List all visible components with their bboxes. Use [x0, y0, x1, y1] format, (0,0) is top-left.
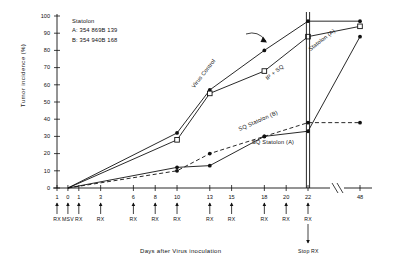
x-tick-label: 10	[170, 194, 184, 200]
data-point-marker	[175, 138, 180, 143]
annotation-lines-group	[55, 12, 310, 244]
data-point-marker	[358, 35, 362, 39]
data-point-marker	[358, 121, 362, 125]
series-line	[68, 123, 360, 188]
x-tick-label: 3	[94, 194, 108, 200]
legend-line-a: A: 354 869B 139	[72, 26, 117, 35]
stop-rx-label: Stop RX	[298, 248, 319, 254]
x-tick-label: 48	[353, 194, 367, 200]
treatment-label: RX	[200, 216, 220, 222]
treatment-label: RX	[254, 216, 274, 222]
data-point-marker	[208, 152, 212, 156]
legend: Statolon A: 354 869B 139 B: 354 940B 168	[72, 17, 117, 45]
y-tick-label: 90	[34, 30, 50, 36]
data-point-marker	[262, 135, 266, 139]
y-tick-label: 50	[34, 99, 50, 105]
x-tick-label: 13	[203, 194, 217, 200]
data-point-marker	[175, 131, 179, 135]
markers-group	[175, 19, 363, 172]
y-tick-label: 80	[34, 47, 50, 53]
y-tick-label: 100	[34, 13, 50, 19]
data-point-marker	[358, 19, 362, 23]
data-point-marker	[175, 169, 179, 173]
treatment-label: RX	[167, 216, 187, 222]
treatment-label: RX	[276, 216, 296, 222]
treatment-label: RX	[123, 216, 143, 222]
data-point-marker	[262, 69, 267, 74]
treatment-label: RX	[222, 216, 242, 222]
x-tick-label: 1	[72, 194, 86, 200]
treatment-label: RX	[298, 216, 318, 222]
y-tick-label: 20	[34, 150, 50, 156]
treatment-label: RX	[91, 216, 111, 222]
x-tick-label: 22	[301, 194, 315, 200]
treatment-label: RX	[69, 216, 89, 222]
y-tick-label: 0	[34, 185, 50, 191]
y-tick-label: 10	[34, 168, 50, 174]
y-tick-label: 40	[34, 116, 50, 122]
y-tick-label: 70	[34, 64, 50, 70]
legend-line-b: B: 354 940B 168	[72, 36, 117, 45]
x-tick-label: 15	[225, 194, 239, 200]
x-axis-title: Days after Virus inoculation	[140, 248, 221, 254]
y-tick-label: 60	[34, 82, 50, 88]
data-point-marker	[207, 91, 212, 96]
chart-root: Tumor incidence (%) 01020304050607080901…	[0, 0, 394, 268]
legend-title: Statolon	[72, 17, 117, 26]
y-tick-label: 30	[34, 133, 50, 139]
data-point-marker	[175, 165, 179, 169]
x-tick-label: 20	[279, 194, 293, 200]
curve-label-sq-statolon-a: SQ Statolon (A)	[252, 139, 294, 145]
treatment-label: RX	[145, 216, 165, 222]
x-tick-label: 8	[148, 194, 162, 200]
x-tick-label: 6	[126, 194, 140, 200]
chart-canvas	[0, 0, 394, 268]
data-point-marker	[262, 49, 266, 53]
data-point-marker	[208, 164, 212, 168]
data-point-marker	[358, 24, 363, 29]
x-tick-label: 18	[257, 194, 271, 200]
